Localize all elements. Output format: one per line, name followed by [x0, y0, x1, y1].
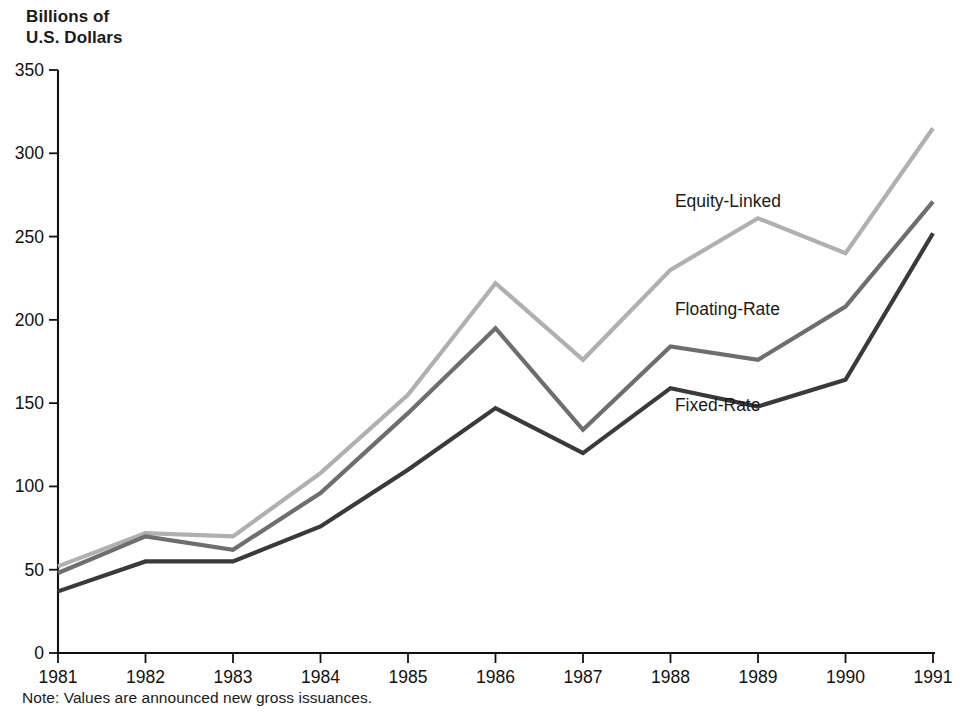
y-axis-tick-label: 200 — [15, 310, 44, 330]
y-axis-tick-label: 150 — [15, 393, 44, 413]
line-chart-plot: 0501001502002503003501981198219831984198… — [0, 0, 961, 713]
series-annotation-fixed-rate: Fixed-Rate — [675, 395, 761, 415]
y-axis-tick-label: 350 — [15, 60, 44, 80]
axis-spines — [58, 70, 935, 653]
x-axis-tick-label: 1987 — [564, 667, 603, 687]
y-axis-tick-label: 100 — [15, 476, 44, 496]
y-axis-tick-label: 50 — [25, 560, 45, 580]
series-line-equity-linked — [58, 128, 933, 566]
x-axis-tick-label: 1988 — [651, 667, 690, 687]
x-axis-tick-label: 1982 — [126, 667, 165, 687]
x-axis-tick-label: 1986 — [476, 667, 515, 687]
x-axis-tick-label: 1983 — [214, 667, 253, 687]
series-line-floating-rate — [58, 202, 933, 573]
x-axis-tick-label: 1989 — [739, 667, 778, 687]
y-axis-tick-label: 300 — [15, 143, 44, 163]
x-axis-tick-label: 1991 — [914, 667, 953, 687]
x-axis-tick-label: 1984 — [301, 667, 340, 687]
series-line-fixed-rate — [58, 233, 933, 591]
chart-note: Note: Values are announced new gross iss… — [22, 689, 372, 707]
series-annotation-floating-rate: Floating-Rate — [675, 299, 780, 319]
series-annotation-equity-linked: Equity-Linked — [675, 191, 781, 211]
x-axis-tick-label: 1990 — [826, 667, 865, 687]
y-axis-tick-label: 250 — [15, 227, 44, 247]
y-axis-tick-label: 0 — [34, 643, 44, 663]
x-axis-tick-label: 1981 — [39, 667, 78, 687]
x-axis-tick-label: 1985 — [389, 667, 428, 687]
chart-figure: Billions of U.S. Dollars 050100150200250… — [0, 0, 961, 713]
